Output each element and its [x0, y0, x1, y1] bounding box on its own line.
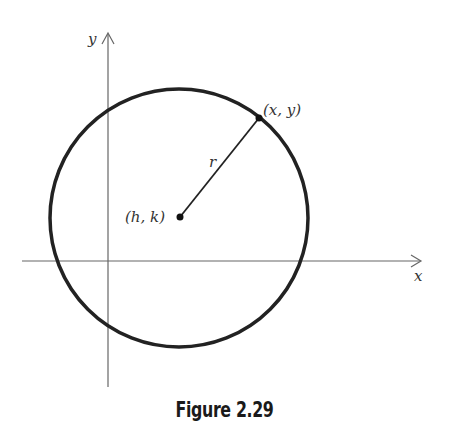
- y-axis: [102, 33, 114, 387]
- center-point: [177, 214, 184, 221]
- y-axis-label: y: [87, 30, 97, 48]
- figure-caption: Figure 2.29: [63, 397, 386, 422]
- radius-line: [180, 118, 259, 217]
- point-label: (x, y): [263, 101, 301, 119]
- radius-label: r: [209, 153, 217, 171]
- x-axis-label: x: [414, 267, 423, 285]
- x-axis: [22, 255, 421, 267]
- circle-diagram: y x (h, k) (x, y) r: [0, 0, 449, 447]
- center-label: (h, k): [125, 208, 165, 226]
- circle-point: [256, 115, 263, 122]
